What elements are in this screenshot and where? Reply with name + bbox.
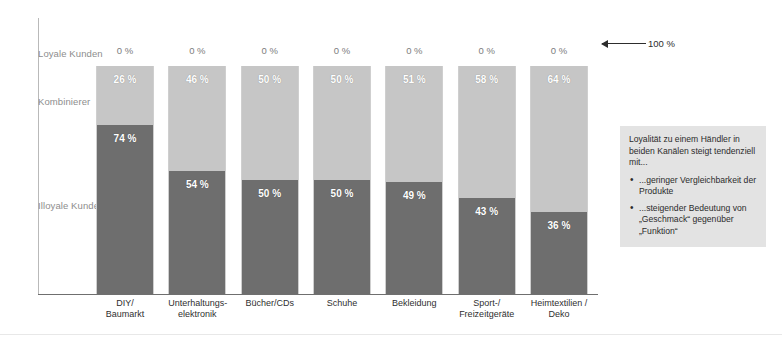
x-axis-label: Sport-/ Freizeitgeräte <box>458 298 516 320</box>
segment-value-label: 64 % <box>531 74 587 85</box>
segment-kombinierer: 50 % <box>242 66 298 180</box>
bar-column: 0 % 50 % 50 % <box>313 18 371 294</box>
segment-illoyal: 74 % <box>97 125 153 294</box>
loyal-value-label: 0 % <box>458 45 516 56</box>
y-axis-line <box>38 18 39 294</box>
row-label-kombinierer: Kombinierer <box>38 96 90 107</box>
loyal-value-label: 0 % <box>168 45 226 56</box>
stacked-bar: 26 % 74 % <box>96 66 154 294</box>
segment-kombinierer: 58 % <box>459 66 515 198</box>
segment-kombinierer: 50 % <box>314 66 370 180</box>
loyal-value-label: 0 % <box>313 45 371 56</box>
segment-illoyal: 54 % <box>169 171 225 294</box>
loyal-value-label: 0 % <box>96 45 154 56</box>
bar-column: 0 % 64 % 36 % <box>530 18 588 294</box>
segment-illoyal: 50 % <box>314 180 370 294</box>
chart-area: Loyale Kunden Kombinierer Illoyale Kunde… <box>38 18 598 318</box>
segment-value-label: 50 % <box>314 188 370 199</box>
bar-columns: 0 % 26 % 74 % 0 % 46 % 54 <box>96 18 588 294</box>
x-axis-label: DIY/ Baumarkt <box>96 298 154 320</box>
row-label-illoyale-kunden: Illoyale Kunden <box>38 200 104 211</box>
segment-value-label: 54 % <box>169 179 225 190</box>
stacked-bar: 50 % 50 % <box>241 66 299 294</box>
segment-illoyal: 36 % <box>531 212 587 294</box>
bar-column: 0 % 46 % 54 % <box>168 18 226 294</box>
x-axis-label: Bücher/CDs <box>241 298 299 320</box>
segment-kombinierer: 64 % <box>531 66 587 212</box>
side-note-box: Loyalität zu einem Händler in beiden Kan… <box>620 126 766 247</box>
bar-column: 0 % 58 % 43 % <box>458 18 516 294</box>
side-note-list: ...geringer Vergleichbarkeit der Produkt… <box>629 175 757 238</box>
page-divider <box>0 334 782 335</box>
segment-value-label: 74 % <box>97 133 153 144</box>
stacked-bar: 46 % 54 % <box>168 66 226 294</box>
x-axis-labels: DIY/ Baumarkt Unterhaltungs- elektronik … <box>96 298 588 320</box>
stacked-bar: 50 % 50 % <box>313 66 371 294</box>
segment-value-label: 26 % <box>97 74 153 85</box>
stacked-bar: 64 % 36 % <box>530 66 588 294</box>
hundred-percent-annotation: 100 % <box>648 38 675 49</box>
segment-value-label: 50 % <box>314 74 370 85</box>
segment-value-label: 36 % <box>531 220 587 231</box>
x-axis-label: Unterhaltungs- elektronik <box>168 298 226 320</box>
stacked-bar: 58 % 43 % <box>458 66 516 294</box>
hundred-percent-arrow-icon <box>602 43 646 44</box>
chart-page: Loyale Kunden Kombinierer Illoyale Kunde… <box>0 0 782 341</box>
x-axis-line <box>38 294 598 295</box>
bar-column: 0 % 50 % 50 % <box>241 18 299 294</box>
segment-value-label: 46 % <box>169 74 225 85</box>
segment-value-label: 58 % <box>459 74 515 85</box>
segment-kombinierer: 51 % <box>386 66 442 182</box>
row-label-loyale-kunden: Loyale Kunden <box>38 48 103 59</box>
x-axis-label: Bekleidung <box>385 298 443 320</box>
side-note-lead: Loyalität zu einem Händler in beiden Kan… <box>629 134 757 169</box>
stacked-bar: 51 % 49 % <box>385 66 443 294</box>
loyal-value-label: 0 % <box>530 45 588 56</box>
side-note-bullet: ...steigender Bedeutung von „Geschmack“ … <box>639 203 757 238</box>
loyal-value-label: 0 % <box>385 45 443 56</box>
segment-illoyal: 50 % <box>242 180 298 294</box>
segment-value-label: 49 % <box>386 190 442 201</box>
x-axis-label: Heimtextilien / Deko <box>530 298 588 320</box>
segment-value-label: 50 % <box>242 74 298 85</box>
segment-kombinierer: 26 % <box>97 66 153 125</box>
segment-value-label: 43 % <box>459 206 515 217</box>
segment-value-label: 51 % <box>386 74 442 85</box>
segment-value-label: 50 % <box>242 188 298 199</box>
segment-illoyal: 49 % <box>386 182 442 294</box>
x-axis-label: Schuhe <box>313 298 371 320</box>
loyal-value-label: 0 % <box>241 45 299 56</box>
segment-kombinierer: 46 % <box>169 66 225 171</box>
bar-column: 0 % 26 % 74 % <box>96 18 154 294</box>
bar-column: 0 % 51 % 49 % <box>385 18 443 294</box>
side-note-bullet: ...geringer Vergleichbarkeit der Produkt… <box>639 175 757 198</box>
segment-illoyal: 43 % <box>459 198 515 294</box>
